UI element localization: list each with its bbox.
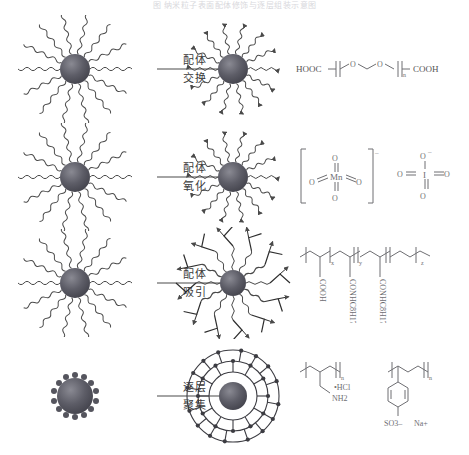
permanganate-oxygen-left: O: [309, 178, 315, 187]
figure-caption: 图 纳米粒子表面配体修饰与逐层组装示意图: [0, 0, 469, 9]
permanganate-oxygen-bottom: O: [332, 194, 338, 203]
exchanged-nanoparticle-icon: [168, 15, 298, 123]
scheme-row-ligand-exchange: 配体 交换: [0, 14, 469, 124]
periodate-oxygen-right: O: [444, 170, 450, 179]
peg-repeat-index: n: [403, 72, 406, 78]
bare-nanoparticle-icon: [0, 342, 150, 450]
hydrophobic-nanoparticle-icon: [0, 229, 150, 337]
pah-hcl-group: •HCl: [334, 383, 351, 392]
amphiphile-coated-nanoparticle-icon: [168, 227, 298, 339]
permanganate-oxygen-right: O: [356, 178, 362, 187]
scheme-row-ligand-oxidation: 配体 氧化: [0, 122, 469, 232]
peg-left-group: HOOC: [296, 64, 322, 74]
peg-oxygen-1: O: [350, 60, 356, 69]
pah-amine-group: NH2: [332, 394, 348, 403]
row1-reagent: HOOC O O n COOH: [290, 14, 469, 124]
row2-reagent: – Mn O O O O: [290, 122, 469, 232]
periodate-oxygen-bottom: O: [420, 192, 426, 201]
hydrophobic-nanoparticle-icon: [0, 123, 150, 231]
polymer-side-group-amide-1: CONHC8H17: [348, 279, 357, 323]
amphiphilic-polymer-structure: x y z COOH CONHC8H17 CONHC8H17: [292, 243, 468, 323]
row1-left-structure: [0, 14, 150, 124]
row1-product-structure: [168, 14, 298, 124]
polymer-side-group-cooh: COOH: [318, 279, 327, 302]
pss-repeat-index: n: [429, 375, 432, 381]
hydrophobic-nanoparticle-icon: [0, 15, 150, 123]
peg-dicarboxylic-acid-structure: HOOC O O n COOH: [292, 44, 468, 94]
periodate-center-atom: I: [423, 170, 426, 180]
scheme-row-ligand-attraction: 配体 吸引: [0, 228, 469, 338]
polymer-repeat-x: x: [331, 260, 334, 266]
bracket-right: [368, 149, 373, 203]
periodate-oxygen-left: O: [397, 170, 403, 179]
peg-right-group: COOH: [413, 64, 439, 74]
permanganate-center-atom: Mn: [330, 172, 343, 182]
permanganate-charge: –: [374, 149, 379, 157]
peg-oxygen-2: O: [377, 60, 383, 69]
polyelectrolyte-shell-nanoparticle-icon: [168, 340, 298, 452]
row4-product-structure: [168, 341, 298, 451]
row4-reagent: n •HCl NH2: [290, 341, 469, 451]
row2-product-structure: [168, 122, 298, 232]
polyelectrolyte-structures: n •HCl NH2: [292, 356, 468, 436]
pss-structure: n SO3– Na+: [384, 362, 432, 428]
periodate-structure: I O – O O O: [397, 148, 450, 201]
scheme-row-layer-by-layer: 逐层 聚集: [0, 341, 469, 451]
polymer-repeat-z: z: [421, 260, 424, 266]
permanganate-oxygen-top: O: [332, 154, 338, 163]
polymer-repeat-y: y: [359, 260, 362, 266]
row3-left-structure: [0, 228, 150, 338]
row3-reagent: x y z COOH CONHC8H17 CONHC8H17: [290, 228, 469, 338]
bracket-left: [301, 149, 306, 203]
row2-left-structure: [0, 122, 150, 232]
pah-structure: n •HCl NH2: [300, 362, 351, 403]
pah-repeat-index: n: [341, 375, 344, 381]
periodate-oxygen-top: O: [420, 152, 426, 161]
permanganate-structure: – Mn O O O O: [301, 149, 379, 203]
row4-left-structure: [0, 341, 150, 451]
periodate-charge: –: [427, 148, 432, 156]
oxidized-nanoparticle-icon: [168, 123, 298, 231]
row3-product-structure: [168, 228, 298, 338]
pss-sulfonate-group: SO3–: [384, 419, 403, 428]
polymer-side-group-amide-2: CONHC8H17: [378, 279, 387, 323]
oxidant-structures: – Mn O O O O: [292, 141, 468, 213]
reaction-scheme: 配体 交换: [0, 14, 469, 455]
pss-sodium-counterion: Na+: [414, 419, 428, 428]
